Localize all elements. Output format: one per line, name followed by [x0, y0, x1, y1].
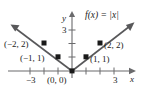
function-label: f(x) = |x| [85, 11, 119, 21]
y-axis-arrowhead-icon [69, 11, 75, 17]
point-label-neg1-1: (−1, 1) [20, 54, 45, 63]
absolute-value-function-graph: f(x) = |x| y x 3 −3 3 (−2, 2) (−1, 1) (0… [0, 0, 142, 94]
x-tick-label-neg3: −3 [26, 76, 36, 85]
curve-right-arrowhead-icon [126, 22, 135, 31]
data-point-marker [70, 68, 75, 73]
x-tick-label-3: 3 [113, 76, 118, 85]
data-point-marker [84, 54, 89, 59]
data-point-marker [42, 41, 47, 46]
x-axis-label: x [130, 75, 134, 84]
point-label-neg2-2: (−2, 2) [4, 40, 29, 49]
y-axis-label: y [62, 14, 66, 23]
point-label-2-2: (2, 2) [104, 41, 124, 50]
data-point-marker [98, 41, 103, 46]
data-point-marker [56, 54, 61, 59]
y-tick-label-3: 3 [62, 26, 67, 35]
point-label-1-1: (1, 1) [90, 55, 110, 64]
point-label-0-0: (0, 0) [47, 76, 67, 85]
